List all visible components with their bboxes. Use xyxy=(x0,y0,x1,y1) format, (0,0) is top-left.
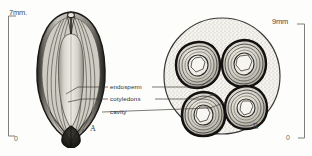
botanical-figure: 7mm. 0 9mm 0 xyxy=(0,0,312,156)
callout-cavity: cavity xyxy=(110,108,126,115)
right-scale-bar xyxy=(293,20,309,142)
callout-leader-lines xyxy=(60,72,275,128)
left-scale-bar xyxy=(4,12,20,142)
callout-endosperm: endosperm xyxy=(110,83,142,90)
callout-cotyledons: cotyledons xyxy=(110,95,141,102)
right-scale-bottom-label: 0 xyxy=(286,134,290,141)
left-scale-bottom-label: 0 xyxy=(14,135,18,142)
